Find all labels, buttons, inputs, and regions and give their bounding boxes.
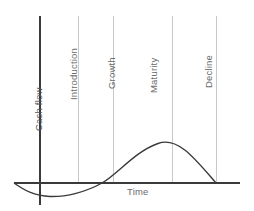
phase-label-growth: Growth: [106, 57, 117, 89]
product-lifecycle-cash-flow-chart: Cash flow Introduction Growth Maturity D…: [0, 0, 254, 211]
x-axis-title: Time: [127, 186, 149, 197]
cash-flow-curve: [14, 142, 216, 196]
phase-label-maturity: Maturity: [148, 58, 159, 93]
phase-label-decline: Decline: [203, 55, 214, 88]
phase-label-introduction: Introduction: [68, 48, 79, 100]
y-axis-title: Cash flow: [33, 87, 44, 131]
